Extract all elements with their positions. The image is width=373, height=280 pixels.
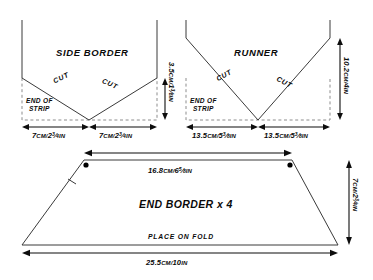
end-border-top-dimension <box>84 150 292 156</box>
dim-unit-in: IN <box>126 133 132 139</box>
dim-fraction: 3⁄8 <box>223 131 230 140</box>
end-border-bottom-label: 25.5CM/10IN <box>146 259 187 267</box>
dim-fraction: 5⁄8 <box>179 166 186 175</box>
runner-title: RUNNER <box>234 48 278 58</box>
runner-width-dimension-right <box>258 124 330 130</box>
dim-fraction: 3⁄4 <box>351 198 360 205</box>
side-border-title: SIDE BORDER <box>56 48 129 58</box>
dim-unit-in: IN <box>230 133 236 139</box>
corner-dot-right <box>287 162 292 167</box>
dim-unit-cm: CM/ <box>163 168 174 174</box>
dim-unit-in: IN <box>302 133 308 139</box>
side-border-width-dimension-left <box>22 124 89 130</box>
dim-unit-cm: CM/ <box>168 73 174 84</box>
end-border-bottom-dimension <box>22 250 338 256</box>
dim-value: 13.5 <box>192 131 207 140</box>
side-border-end-of-strip-line2: STRIP <box>29 105 50 112</box>
end-border-top-label: 16.8CM/65⁄8IN <box>148 167 192 175</box>
dim-unit-in: IN <box>186 168 192 174</box>
end-border-height-label: 7CM/23⁄4IN <box>351 178 359 211</box>
dim-value: 25.5 <box>146 258 161 267</box>
side-border-width-dimension-right <box>89 124 157 130</box>
dim-unit-cm: CM/ <box>279 133 290 139</box>
side-border-width-right-label: 7CM/23⁄4IN <box>99 132 132 140</box>
dim-unit-cm: CM/ <box>161 260 172 266</box>
runner-end-of-strip-line1: END OF <box>190 97 217 104</box>
runner-width-dimension-left <box>186 124 258 130</box>
side-border-width-left-label: 7CM/23⁄4IN <box>32 132 65 140</box>
dim-fraction: 3⁄4 <box>52 131 59 140</box>
runner-end-of-strip-line2: STRIP <box>193 105 214 112</box>
runner-height-label: 10.2CM/4IN <box>342 57 350 94</box>
runner-width-left-label: 13.5CM/53⁄8IN <box>192 132 236 140</box>
dim-unit-cm: CM/ <box>207 133 218 139</box>
dim-unit-in: IN <box>352 205 358 211</box>
dim-unit-cm: CM/ <box>352 182 358 193</box>
dim-value: 13.5 <box>264 131 279 140</box>
side-border-end-of-strip: END OF STRIP <box>26 97 53 113</box>
dim-unit-in: IN <box>181 260 187 266</box>
dim-value: 16.8 <box>148 166 163 175</box>
runner-end-of-strip: END OF STRIP <box>190 97 217 113</box>
dim-unit-in: IN <box>343 88 349 94</box>
place-on-fold-label: PLACE ON FOLD <box>148 234 214 241</box>
dim-inch-whole: 10 <box>173 258 182 267</box>
dim-fraction: 3⁄4 <box>119 131 126 140</box>
dim-unit-in: IN <box>59 133 65 139</box>
side-border-end-of-strip-line1: END OF <box>26 97 53 104</box>
dim-unit-cm: CM/ <box>36 133 47 139</box>
runner-width-right-label: 13.5CM/53⁄8IN <box>264 132 308 140</box>
dim-unit-cm: CM/ <box>103 133 114 139</box>
side-border-height-label: 3.5CM/13⁄8IN <box>167 62 175 102</box>
corner-dot-left <box>83 162 88 167</box>
dim-unit-cm: CM/ <box>343 72 349 83</box>
dim-value: 10.2 <box>342 57 351 72</box>
dim-fraction: 3⁄8 <box>295 131 302 140</box>
pattern-diagram: SIDE BORDER CUT CUT END OF STRIP 3.5CM/1… <box>0 0 373 280</box>
end-border-title: END BORDER x 4 <box>139 199 233 210</box>
dim-value: 3.5 <box>167 62 176 73</box>
dim-unit-in: IN <box>168 95 174 101</box>
